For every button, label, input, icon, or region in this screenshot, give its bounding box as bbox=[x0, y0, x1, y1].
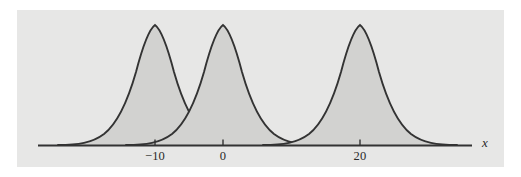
tick-label-0: 0 bbox=[220, 149, 226, 164]
plot-canvas bbox=[0, 0, 521, 177]
curve-fill-3 bbox=[263, 25, 457, 145]
x-axis-label: x bbox=[482, 135, 488, 151]
curve-group-3 bbox=[263, 25, 457, 145]
figure-normal-curves: −10 0 20 x bbox=[0, 0, 521, 177]
tick-label-minus-10: −10 bbox=[145, 149, 165, 164]
tick-label-20: 20 bbox=[354, 149, 367, 164]
